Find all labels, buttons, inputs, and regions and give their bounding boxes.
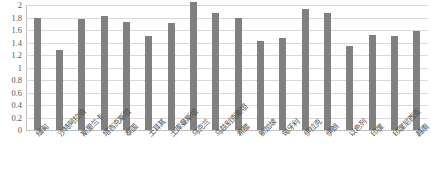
x-axis-tick: 越南	[406, 131, 428, 195]
x-axis-tick: 乌克兰	[182, 131, 204, 195]
x-axis-tick: 伊朗	[316, 131, 338, 195]
x-axis-tick: 印度尼西亚	[383, 131, 405, 195]
bar-chart: 21.81.61.41.210.80.60.40.20 缅甸沙特阿拉伯斯里兰卡塔…	[0, 0, 431, 196]
bar-slot	[383, 5, 405, 130]
x-axis-tick: 匈牙利	[272, 131, 294, 195]
x-axis-tick: 新加坡	[249, 131, 271, 195]
bar[interactable]	[391, 36, 398, 130]
y-axis-tick-label: 0.6	[11, 89, 22, 98]
y-axis-tick-label: 1.4	[11, 39, 22, 48]
bar-slot	[294, 5, 316, 130]
bar-slot	[26, 5, 48, 130]
bar-slot	[48, 5, 70, 130]
bar-slot	[160, 5, 182, 130]
y-axis-tick-label: 1.2	[11, 51, 22, 60]
bar[interactable]	[212, 13, 219, 131]
bar-slot	[93, 5, 115, 130]
bar-slot	[138, 5, 160, 130]
y-axis-tick-label: 0.4	[11, 101, 22, 110]
bar-slot	[249, 5, 271, 130]
x-axis-tick: 伊拉克	[294, 131, 316, 195]
y-axis-tick-label: 0	[18, 126, 22, 135]
bar-slot	[339, 5, 361, 130]
bar[interactable]	[168, 23, 175, 131]
bar[interactable]	[101, 16, 108, 130]
y-axis: 21.81.61.41.210.80.60.40.20	[0, 0, 24, 136]
x-axis-tick: 土耳其	[138, 131, 160, 195]
y-axis-tick-label: 0.2	[11, 114, 22, 123]
y-axis-tick-label: 0.8	[11, 76, 22, 85]
y-axis-tick-label: 1.6	[11, 26, 22, 35]
x-axis-tick: 斯里兰卡	[71, 131, 93, 195]
bar-series	[26, 5, 428, 130]
x-axis-tick: 土库曼斯坦	[160, 131, 182, 195]
bar[interactable]	[369, 35, 376, 130]
x-axis-tick: 印度	[361, 131, 383, 195]
y-axis-tick-label: 1	[18, 64, 22, 73]
bar-slot	[205, 5, 227, 130]
x-axis-tick: 希腊	[227, 131, 249, 195]
x-axis-tick: 以色列	[339, 131, 361, 195]
x-axis: 缅甸沙特阿拉伯斯里兰卡塔吉克斯坦泰国土耳其土库曼斯坦乌克兰乌兹别克斯坦希腊新加坡…	[26, 131, 428, 195]
x-axis-tick: 沙特阿拉伯	[48, 131, 70, 195]
y-axis-tick-label: 2	[18, 1, 22, 10]
x-axis-tick: 缅甸	[26, 131, 48, 195]
bar-slot	[361, 5, 383, 130]
bar-slot	[316, 5, 338, 130]
bar[interactable]	[145, 36, 152, 130]
x-axis-tick: 乌兹别克斯坦	[205, 131, 227, 195]
bar[interactable]	[346, 46, 353, 130]
y-axis-tick-label: 1.8	[11, 14, 22, 23]
bar[interactable]	[279, 38, 286, 130]
bar[interactable]	[324, 13, 331, 130]
bar[interactable]	[257, 41, 264, 130]
bar[interactable]	[56, 50, 63, 130]
plot-area	[26, 5, 428, 130]
x-axis-tick: 塔吉克斯坦	[93, 131, 115, 195]
bar[interactable]	[34, 18, 41, 131]
x-axis-tick: 泰国	[115, 131, 137, 195]
bar[interactable]	[302, 9, 309, 130]
bar-slot	[272, 5, 294, 130]
